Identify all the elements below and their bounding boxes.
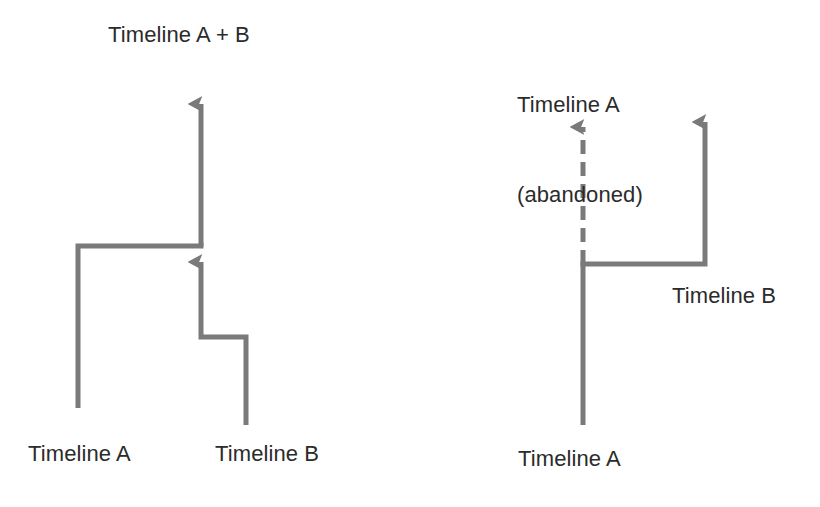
left-timeline-a-path — [78, 246, 204, 408]
left-caption-timeline-b: Timeline B — [215, 441, 319, 467]
left-panel-title: Timeline A + B — [108, 22, 250, 48]
timeline-diagram-svg — [0, 0, 820, 507]
left-caption-timeline-a: Timeline A — [28, 441, 131, 467]
right-caption-timeline-a: Timeline A — [518, 446, 621, 472]
diagram-canvas: Timeline A + B Timeline A Timeline B Tim… — [0, 0, 820, 507]
right-panel-title: Timeline A (abandoned) — [517, 30, 643, 270]
right-panel-title-line-1: Timeline A — [517, 90, 643, 120]
right-panel-title-line-2: (abandoned) — [517, 180, 643, 210]
left-panel-graphics — [78, 104, 246, 425]
left-timeline-b-path — [201, 262, 246, 425]
right-caption-timeline-b: Timeline B — [672, 283, 776, 309]
